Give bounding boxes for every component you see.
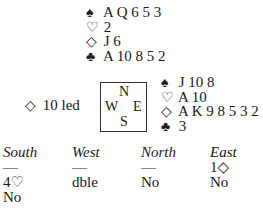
east-clubs: ♣ 3 xyxy=(161,119,259,134)
compass-west: W xyxy=(105,100,118,114)
bid-cell: dble xyxy=(72,175,141,190)
east-spades: ♠ J 10 8 xyxy=(161,75,259,90)
auction-row: No xyxy=(3,190,263,205)
compass-south: S xyxy=(120,115,128,129)
diamond-icon: ◇ xyxy=(161,105,175,120)
north-spades: ♠ A Q 6 5 3 xyxy=(86,5,165,20)
north-hearts-cards: 2 xyxy=(104,19,112,35)
east-hearts: ♡ A 10 xyxy=(161,90,259,105)
heart-icon: ♡ xyxy=(161,91,175,106)
club-icon: ♣ xyxy=(86,50,100,65)
bid-cell: 4♡ xyxy=(3,175,72,190)
opening-lead-text: 10 led xyxy=(43,97,80,113)
header-west: West xyxy=(72,145,141,160)
north-spades-cards: A Q 6 5 3 xyxy=(103,4,161,20)
east-hand: ♠ J 10 8 ♡ A 10 ◇ A K 9 8 5 3 2 ♣ 3 xyxy=(161,75,259,133)
bid-cell: — xyxy=(3,160,72,175)
east-hearts-cards: A 10 xyxy=(178,89,207,105)
header-north: North xyxy=(141,145,210,160)
bid-cell: — xyxy=(141,160,210,175)
auction-header: South West North East xyxy=(3,145,263,160)
opening-lead: ◇ 10 led xyxy=(25,97,80,114)
east-clubs-cards: 3 xyxy=(179,118,187,134)
east-diamonds: ◇ A K 9 8 5 3 2 xyxy=(161,104,259,119)
auction-table: South West North East — — — 1◇ 4♡ dble N… xyxy=(3,145,263,205)
header-south: South xyxy=(3,145,72,160)
north-diamonds: ◇ J 6 xyxy=(86,34,165,49)
header-east: East xyxy=(210,145,263,160)
compass-east: E xyxy=(133,100,142,114)
bid-cell: 1◇ xyxy=(210,160,263,175)
auction-row: 4♡ dble No No xyxy=(3,175,263,190)
bid-cell xyxy=(72,190,141,205)
north-clubs: ♣ A 10 8 5 2 xyxy=(86,49,165,64)
bid-cell xyxy=(141,190,210,205)
east-diamonds-cards: A K 9 8 5 3 2 xyxy=(178,103,259,119)
auction-row: — — — 1◇ xyxy=(3,160,263,175)
club-icon: ♣ xyxy=(161,120,175,135)
diamond-icon: ◇ xyxy=(25,97,39,114)
east-spades-cards: J 10 8 xyxy=(179,74,215,90)
compass-north: N xyxy=(119,85,129,99)
spade-icon: ♠ xyxy=(161,76,175,91)
north-hearts: ♡ 2 xyxy=(86,20,165,35)
spade-icon: ♠ xyxy=(86,6,100,21)
north-hand: ♠ A Q 6 5 3 ♡ 2 ◇ J 6 ♣ A 10 8 5 2 xyxy=(86,5,165,63)
bid-cell: No xyxy=(3,190,72,205)
north-diamonds-cards: J 6 xyxy=(104,33,121,49)
bid-cell: — xyxy=(72,160,141,175)
heart-icon: ♡ xyxy=(86,21,100,36)
bid-cell: No xyxy=(141,175,210,190)
bid-cell: No xyxy=(210,175,263,190)
compass-box: N W E S xyxy=(100,82,147,132)
diamond-icon: ◇ xyxy=(86,35,100,50)
north-clubs-cards: A 10 8 5 2 xyxy=(103,48,166,64)
bid-cell xyxy=(210,190,263,205)
